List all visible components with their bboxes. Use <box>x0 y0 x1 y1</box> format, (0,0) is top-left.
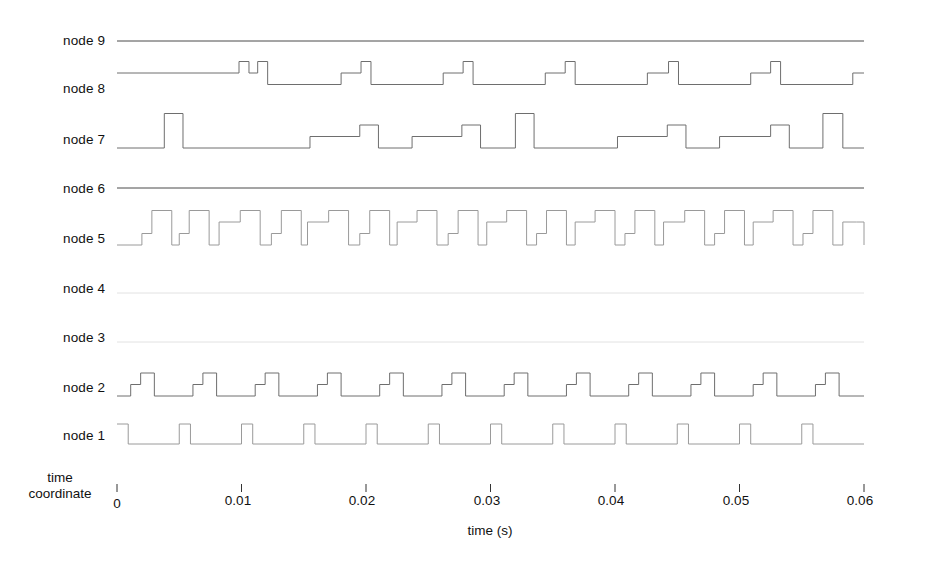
timing-diagram-figure: node 9 node 8 node 7 node 6 node 5 node … <box>0 0 925 576</box>
x-tick-label-5: 0.05 <box>711 493 761 508</box>
waveform-trace-node-1 <box>117 424 864 444</box>
x-tick-label-2: 0.02 <box>337 493 387 508</box>
x-axis-title: time (s) <box>430 523 550 538</box>
waveform-trace-node-2 <box>117 373 864 396</box>
waveform-trace-node-5 <box>117 211 864 246</box>
x-tick-label-6: 0.06 <box>835 493 885 508</box>
waveform-plot-area <box>0 0 925 576</box>
x-tick-label-4: 0.04 <box>586 493 636 508</box>
waveform-trace-node-7 <box>117 114 864 149</box>
x-tick-label-1: 0.01 <box>213 493 263 508</box>
waveform-trace-node-8 <box>117 62 864 85</box>
x-tick-label-3: 0.03 <box>462 493 512 508</box>
x-tick-label-0: 0 <box>102 496 132 511</box>
